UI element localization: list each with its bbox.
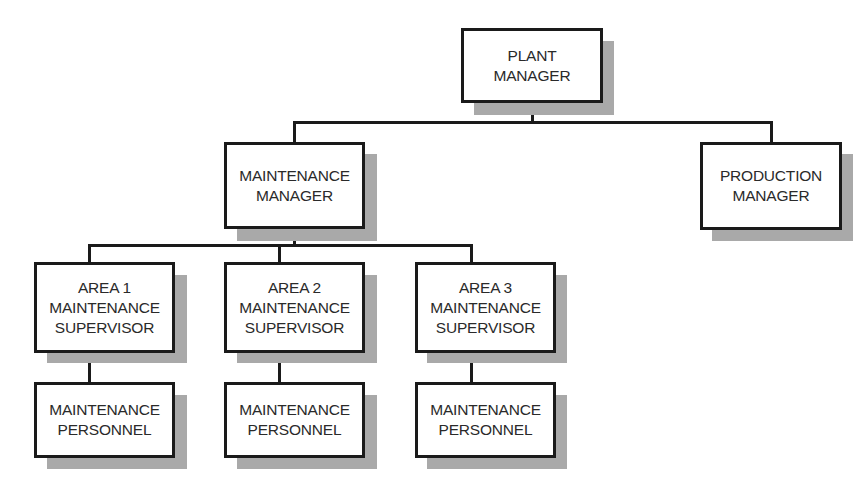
area3-supervisor-line-2: MAINTENANCE bbox=[430, 298, 541, 318]
connector-to-production-manager bbox=[770, 121, 773, 144]
production-manager-line-1: PRODUCTION bbox=[720, 166, 822, 186]
maintenance-manager-line-2: MANAGER bbox=[256, 186, 333, 206]
connector-to-area1 bbox=[88, 244, 91, 264]
area3-personnel-line-2: PERSONNEL bbox=[439, 420, 533, 440]
area1-supervisor-line-3: SUPERVISOR bbox=[55, 318, 154, 338]
production-manager-line-2: MANAGER bbox=[733, 186, 810, 206]
maintenance-manager-box: MAINTENANCE MANAGER bbox=[224, 142, 365, 229]
area3-supervisor-line-1: AREA 3 bbox=[459, 278, 512, 298]
plant-manager-box: PLANT MANAGER bbox=[461, 28, 603, 103]
area2-supervisor-line-1: AREA 2 bbox=[268, 278, 321, 298]
plant-manager-line-2: MANAGER bbox=[494, 66, 571, 86]
maintenance-manager-line-1: MAINTENANCE bbox=[239, 166, 350, 186]
area2-supervisor-line-3: SUPERVISOR bbox=[245, 318, 344, 338]
area2-personnel-line-2: PERSONNEL bbox=[248, 420, 342, 440]
connector-to-area3 bbox=[470, 244, 473, 264]
area1-personnel-box: MAINTENANCE PERSONNEL bbox=[34, 382, 175, 458]
area1-supervisor-line-1: AREA 1 bbox=[78, 278, 131, 298]
area3-supervisor-line-3: SUPERVISOR bbox=[436, 318, 535, 338]
org-chart: PLANT MANAGER MAINTENANCE MANAGER PRODUC… bbox=[0, 0, 867, 496]
plant-manager-line-1: PLANT bbox=[508, 46, 557, 66]
area1-supervisor-line-2: MAINTENANCE bbox=[49, 298, 160, 318]
connector-to-maintenance-manager bbox=[293, 121, 296, 144]
area3-personnel-line-1: MAINTENANCE bbox=[430, 400, 541, 420]
area2-supervisor-line-2: MAINTENANCE bbox=[239, 298, 350, 318]
area1-personnel-line-1: MAINTENANCE bbox=[49, 400, 160, 420]
area1-supervisor-box: AREA 1 MAINTENANCE SUPERVISOR bbox=[34, 262, 175, 353]
area2-personnel-line-1: MAINTENANCE bbox=[239, 400, 350, 420]
area3-supervisor-box: AREA 3 MAINTENANCE SUPERVISOR bbox=[415, 262, 556, 353]
area3-personnel-box: MAINTENANCE PERSONNEL bbox=[415, 382, 556, 458]
area2-personnel-box: MAINTENANCE PERSONNEL bbox=[224, 382, 365, 458]
production-manager-box: PRODUCTION MANAGER bbox=[700, 142, 842, 230]
connector-level1-horizontal bbox=[293, 121, 773, 124]
area1-personnel-line-2: PERSONNEL bbox=[58, 420, 152, 440]
area2-supervisor-box: AREA 2 MAINTENANCE SUPERVISOR bbox=[224, 262, 365, 353]
connector-to-area2 bbox=[278, 244, 281, 264]
